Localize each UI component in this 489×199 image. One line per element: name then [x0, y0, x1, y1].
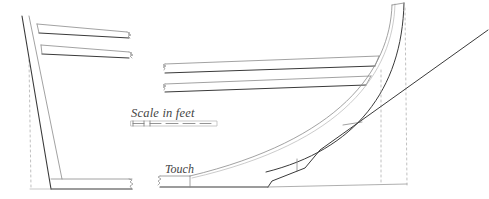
- right-dashed-guide-2: [405, 8, 407, 185]
- left-upper-plank: [37, 24, 131, 38]
- keel-bottom-line: [158, 176, 407, 187]
- hull-section-diagram: [0, 0, 489, 199]
- touch-label: Touch: [165, 162, 194, 177]
- left-dashed-guide: [29, 60, 31, 188]
- scale-label: Scale in feet: [131, 106, 195, 121]
- left-stern-post: [22, 16, 62, 189]
- right-upper-plank: [163, 56, 379, 73]
- scale-bar: [131, 121, 217, 126]
- left-heel-plank: [30, 179, 133, 189]
- right-lower-plank: [163, 76, 371, 92]
- diagonal-rise-line: [268, 30, 488, 187]
- left-middle-plank: [41, 45, 133, 58]
